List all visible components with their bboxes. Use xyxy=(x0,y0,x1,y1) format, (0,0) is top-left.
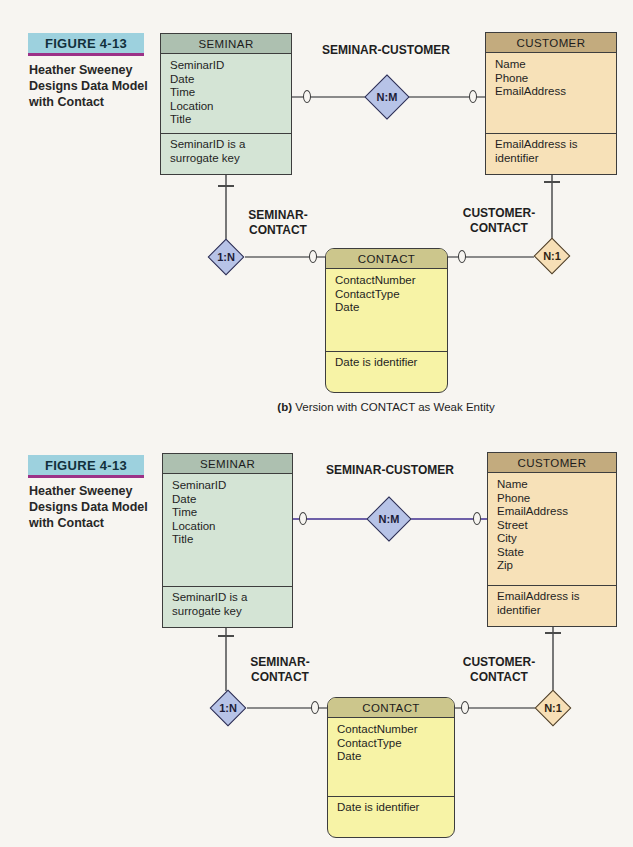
entity-seminar-title: SEMINAR xyxy=(161,34,291,54)
figure-title-line: Designs Data Model xyxy=(29,78,159,94)
entity-customer-title: CUSTOMER xyxy=(488,453,616,473)
entity-contact-title: CONTACT xyxy=(326,249,447,269)
attribute-row: Zip xyxy=(497,559,607,573)
figure-badge: FIGURE 4-13 xyxy=(28,455,144,478)
attribute-row: Date xyxy=(335,301,438,315)
diamond-seminar-customer: N:M xyxy=(365,75,409,119)
entity-contact-attributes: ContactNumberContactTypeDate xyxy=(328,718,454,797)
figure-title-line: Heather Sweeney xyxy=(29,483,159,499)
attribute-row: Time xyxy=(170,86,282,100)
entity-contact-note: Date is identifier xyxy=(326,352,447,392)
relationship-label-line: CONTACT xyxy=(233,223,323,238)
relationship-label-customer-contact: CUSTOMER-CONTACT xyxy=(454,206,544,236)
connector-customer-n1 xyxy=(551,175,553,239)
optional-circle-icon xyxy=(309,250,317,263)
relationship-label-seminar-contact: SEMINAR-CONTACT xyxy=(233,208,323,238)
entity-contact: CONTACT ContactNumberContactTypeDate Dat… xyxy=(325,248,448,393)
attribute-row: State xyxy=(497,546,607,560)
attribute-row: Title xyxy=(172,533,283,547)
optional-circle-icon xyxy=(461,701,469,714)
connector-seminar-1n xyxy=(225,628,227,691)
attribute-row: Date xyxy=(337,750,445,764)
relationship-label-line: CONTACT xyxy=(235,670,325,685)
entity-customer: CUSTOMER NamePhoneEmailAddressStreetCity… xyxy=(487,452,617,627)
diamond-seminar-contact: 1:N xyxy=(209,689,247,727)
attribute-row: Name xyxy=(497,478,607,492)
attribute-row: Location xyxy=(170,100,282,114)
figure-title: Heather SweeneyDesigns Data Modelwith Co… xyxy=(29,483,159,531)
entity-customer-attributes: NamePhoneEmailAddressStreetCityStateZip xyxy=(488,473,616,586)
optional-circle-icon xyxy=(469,90,477,103)
entity-seminar-attributes: SeminarIDDateTimeLocationTitle xyxy=(161,54,291,134)
cardinality-label: N:1 xyxy=(544,702,562,714)
entity-contact-note: Date is identifier xyxy=(328,797,454,837)
optional-circle-icon xyxy=(303,90,311,103)
relationship-label-line: SEMINAR- xyxy=(235,655,325,670)
optional-circle-icon xyxy=(473,512,481,525)
attribute-row: Title xyxy=(170,113,282,127)
connector-customer-n1 xyxy=(552,627,554,690)
entity-customer: CUSTOMER NamePhoneEmailAddress EmailAddr… xyxy=(485,32,617,175)
attribute-row: Time xyxy=(172,506,283,520)
diamond-seminar-customer: N:M xyxy=(367,497,411,541)
relationship-label-seminar-customer: SEMINAR-CUSTOMER xyxy=(300,43,472,58)
relationship-label-line: CUSTOMER- xyxy=(454,655,544,670)
diamond-customer-contact: N:1 xyxy=(534,689,572,727)
figure-badge-label: FIGURE 4-13 xyxy=(45,458,127,473)
attribute-row: ContactType xyxy=(337,737,445,751)
attribute-row: ContactType xyxy=(335,288,438,302)
entity-customer-note: EmailAddress is identifier xyxy=(488,586,616,626)
relationship-label-seminar-customer: SEMINAR-CUSTOMER xyxy=(304,463,476,478)
figure-page: FIGURE 4-13 Heather SweeneyDesigns Data … xyxy=(0,0,633,847)
entity-contact-title: CONTACT xyxy=(328,698,454,718)
entity-customer-attributes: NamePhoneEmailAddress xyxy=(486,53,616,134)
attribute-row: ContactNumber xyxy=(337,723,445,737)
attribute-row: Date xyxy=(170,73,282,87)
optional-circle-icon xyxy=(299,512,307,525)
entity-seminar-attributes: SeminarIDDateTimeLocationTitle xyxy=(163,474,292,587)
mandatory-tick-icon xyxy=(218,185,234,187)
relationship-label-line: CONTACT xyxy=(454,670,544,685)
figure-title-line: Heather Sweeney xyxy=(29,62,159,78)
figure-title: Heather SweeneyDesigns Data Modelwith Co… xyxy=(29,62,159,110)
cardinality-label: N:M xyxy=(379,513,400,525)
relationship-label-line: CONTACT xyxy=(454,221,544,236)
attribute-row: Phone xyxy=(495,72,607,86)
diagram-caption: (b) Version with CONTACT as Weak Entity xyxy=(216,401,556,413)
attribute-row: EmailAddress xyxy=(495,85,607,99)
attribute-row: City xyxy=(497,532,607,546)
optional-circle-icon xyxy=(311,701,319,714)
entity-contact-attributes: ContactNumberContactTypeDate xyxy=(326,269,447,352)
attribute-row: Street xyxy=(497,519,607,533)
mandatory-tick-icon xyxy=(218,635,234,637)
diagram-caption-prefix: (b) xyxy=(277,401,292,413)
attribute-row: Location xyxy=(172,520,283,534)
attribute-row: ContactNumber xyxy=(335,274,438,288)
attribute-row: EmailAddress xyxy=(497,505,607,519)
attribute-row: Date xyxy=(172,493,283,507)
figure-title-line: Designs Data Model xyxy=(29,499,159,515)
entity-customer-title: CUSTOMER xyxy=(486,33,616,53)
cardinality-label: 1:N xyxy=(219,702,237,714)
diamond-customer-contact: N:1 xyxy=(533,237,571,275)
entity-seminar-note: SeminarID is a surrogate key xyxy=(161,134,291,174)
mandatory-tick-icon xyxy=(544,181,560,183)
figure-title-line: with Contact xyxy=(29,515,159,531)
diagram-caption-text: Version with CONTACT as Weak Entity xyxy=(292,401,495,413)
entity-customer-note: EmailAddress is identifier xyxy=(486,134,616,174)
entity-contact: CONTACT ContactNumberContactTypeDate Dat… xyxy=(327,697,455,838)
attribute-row: SeminarID xyxy=(172,479,283,493)
figure-title-line: with Contact xyxy=(29,94,159,110)
relationship-label-seminar-contact: SEMINAR-CONTACT xyxy=(235,655,325,685)
entity-seminar: SEMINAR SeminarIDDateTimeLocationTitle S… xyxy=(160,33,292,175)
diamond-seminar-contact: 1:N xyxy=(207,238,245,276)
attribute-row: Phone xyxy=(497,492,607,506)
figure-badge-label: FIGURE 4-13 xyxy=(45,36,127,51)
cardinality-label: 1:N xyxy=(217,251,235,263)
figure-badge: FIGURE 4-13 xyxy=(28,33,144,56)
entity-seminar-note: SeminarID is a surrogate key xyxy=(163,587,292,627)
relationship-label-line: SEMINAR- xyxy=(233,208,323,223)
relationship-label-line: CUSTOMER- xyxy=(454,206,544,221)
entity-seminar: SEMINAR SeminarIDDateTimeLocationTitle S… xyxy=(162,453,293,628)
cardinality-label: N:1 xyxy=(543,250,561,262)
